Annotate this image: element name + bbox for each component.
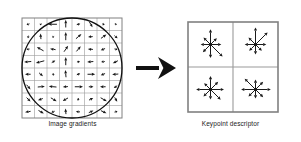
descriptor-cell-bottom-left-bin-2: [209, 76, 212, 90]
gradient-arrow-r6-c4: [77, 98, 80, 100]
gradient-arrow-r6-c2: [51, 98, 57, 101]
gradient-arrow-r5-c3: [63, 85, 68, 88]
gradient-arrow-r2-c5: [88, 48, 93, 51]
gradient-arrow-r2-c1-shaft: [40, 49, 44, 51]
gradient-arrow-r4-c6-head: [101, 73, 104, 76]
gradient-arrow-r5-c0-shaft: [27, 85, 29, 87]
keypoint-descriptor-panel: [188, 22, 278, 112]
gradient-arrow-r5-c7-shaft: [116, 86, 117, 87]
gradient-arrow-r1-c6: [101, 35, 106, 39]
gradient-arrow-r4-c1-shaft: [39, 73, 40, 74]
gradient-arrow-r2-c7: [115, 48, 118, 51]
descriptor-cell-top-right: [245, 27, 268, 54]
gradient-arrow-r4-c2: [52, 73, 55, 76]
descriptor-cell-bottom-left-bin-4: [196, 88, 210, 91]
gradient-arrow-r3-c4-head: [78, 60, 80, 63]
gradient-arrow-r1-c5-head: [88, 35, 91, 38]
gradient-arrow-r5-c6-head: [100, 85, 103, 88]
descriptor-cell-top-left-center-dot: [209, 43, 212, 46]
transform-arrow-shaft: [136, 66, 159, 70]
gradient-arrow-r2-c3-shaft: [64, 49, 66, 52]
gradient-arrow-r3-c0-head: [24, 60, 28, 63]
gradient-arrow-r4-c4: [77, 73, 80, 76]
gradient-arrow-r4-c5-head: [92, 73, 95, 76]
gradient-arrow-r5-c4: [75, 85, 83, 88]
gradient-arrow-r2-c5-head: [88, 48, 91, 51]
gradient-arrow-r3-c2-shaft: [52, 62, 53, 63]
descriptor-cell-bottom-left-bin-0: [211, 88, 225, 91]
gradient-arrow-r3-c3-head: [64, 57, 67, 60]
gradient-arrow-r2-c2: [50, 48, 56, 51]
keypoint-descriptor-caption: Keypoint descriptor: [160, 120, 301, 127]
gradient-arrow-r2-c6: [101, 48, 105, 51]
gradient-arrow-r3-c7: [113, 60, 118, 63]
transform-arrow: [136, 57, 176, 79]
gradient-arrow-r6-c5-shaft: [89, 99, 90, 100]
image-gradients-caption: Image gradients: [0, 120, 145, 127]
gradient-arrow-r1-c2: [52, 35, 54, 38]
gradient-arrow-r4-c7-head: [112, 73, 116, 76]
gradient-arrow-r1-c4: [76, 34, 82, 39]
descriptor-cell-bottom-left-bin-0-head: [221, 88, 224, 91]
gradient-arrow-r0-c1: [40, 23, 42, 25]
gradient-arrow-r4-c6: [101, 73, 105, 76]
gradient-arrow-r5-c2-head: [49, 85, 53, 88]
gradient-arrow-r1-c1-head: [39, 33, 42, 37]
gradient-arrow-r2-c1: [37, 47, 44, 51]
gradient-arrow-r1-c7-shaft: [114, 36, 115, 37]
gradient-arrow-r3-c6: [101, 60, 105, 63]
gradient-arrow-r7-c5: [89, 110, 94, 113]
gradient-arrow-r6-c1: [38, 98, 43, 101]
gradient-arrow-r5-c1: [38, 85, 45, 88]
descriptor-cell-top-right-bin-2-head: [254, 27, 257, 30]
gradient-arrow-r1-c3-head: [64, 32, 67, 35]
descriptor-cell-top-right-bin-2: [254, 27, 257, 44]
gradient-arrow-r7-c3-head: [64, 108, 67, 112]
descriptor-cell-bottom-left-bin-1: [211, 82, 219, 90]
gradient-arrow-r1-c1: [39, 33, 42, 39]
image-gradients-panel: [22, 18, 122, 118]
gradient-arrow-r7-c2: [51, 110, 54, 113]
descriptor-cell-bottom-right-bin-4: [241, 88, 255, 91]
descriptor-cell-top-left-bin-7-shaft: [211, 45, 221, 55]
gradient-arrow-r7-c3: [64, 108, 67, 114]
gradient-arrow-r6-c3-shaft: [66, 98, 68, 99]
gradient-arrow-r7-c4-head: [76, 110, 79, 113]
gradient-arrow-r3-c7-head: [113, 60, 117, 63]
gradient-arrow-r7-c6-head: [103, 111, 107, 114]
gradient-arrow-r6-c3: [63, 98, 68, 101]
gradient-arrow-r7-c6: [101, 111, 107, 114]
descriptor-cell-top-left-bin-2-head: [209, 29, 212, 32]
descriptor-cell-top-left-bin-4-head: [201, 43, 204, 46]
gradient-arrow-r0-c4: [77, 23, 80, 26]
descriptor-cell-bottom-left-bin-6-head: [209, 96, 212, 99]
descriptor-cell-bottom-left-bin-7: [211, 90, 221, 100]
descriptor-cell-top-left-bin-0-head: [218, 43, 221, 46]
gradient-arrow-r5-c5: [89, 85, 94, 88]
gradient-arrow-r6-c1-shaft: [41, 99, 43, 100]
gradient-arrow-r1-c0-head: [27, 36, 30, 38]
gradient-arrow-r0-c3-head: [64, 20, 67, 23]
gradient-arrow-r5-c4-head: [80, 85, 83, 88]
descriptor-cell-bottom-right-bin-6-head: [254, 95, 257, 98]
gradient-arrow-r6-c7-shaft: [115, 97, 116, 99]
gradient-arrow-r7-c5-shaft: [89, 112, 91, 113]
gradient-arrow-r6-c5: [89, 98, 93, 101]
gradient-arrow-r4-c1: [39, 73, 43, 76]
gradient-arrow-r5-c7: [114, 85, 117, 88]
descriptor-cell-bottom-right: [241, 79, 271, 99]
descriptor-cell-top-left-bin-7: [211, 45, 223, 57]
gradient-arrow-r0-c7: [115, 23, 117, 26]
gradient-arrow-r2-c6-head: [101, 48, 104, 51]
gradient-arrow-r4-c0-head: [25, 73, 28, 76]
descriptor-cell-bottom-right-bin-4-head: [241, 88, 244, 91]
gradient-arrow-r4-c3: [64, 70, 67, 77]
descriptor-cell-bottom-left: [196, 76, 224, 100]
gradient-arrow-r5-c1-head: [41, 85, 45, 88]
gradient-arrow-r5-c5-head: [90, 85, 93, 88]
gradient-arrow-r4-c5: [88, 73, 96, 76]
descriptor-cell-top-left-bin-6-head: [209, 55, 212, 58]
gradient-arrow-r7-c1-shaft: [39, 110, 41, 111]
gradient-arrow-r0-c6: [102, 23, 104, 26]
descriptor-cell-bottom-left-bin-4-head: [196, 88, 199, 91]
